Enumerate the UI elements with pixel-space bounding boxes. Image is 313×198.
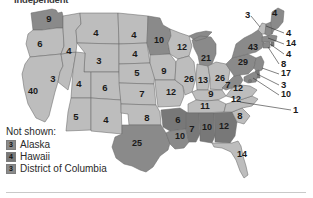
legend-title: Not shown: bbox=[6, 126, 156, 137]
state-value-mi: 21 bbox=[201, 53, 211, 63]
state-value-wy: 3 bbox=[96, 55, 101, 66]
legend-swatch-2: 3 bbox=[6, 164, 16, 174]
state-value-ky: 9 bbox=[208, 88, 213, 99]
state-value-nd: 4 bbox=[131, 29, 137, 40]
state-ks[interactable] bbox=[119, 83, 156, 105]
state-value-sc: 8 bbox=[237, 110, 242, 121]
callout-value-dc: 1 bbox=[293, 104, 299, 115]
callout-value-me: 4 bbox=[272, 7, 278, 18]
state-value-wi: 12 bbox=[177, 42, 187, 52]
legend-label-0: Alaska bbox=[20, 139, 50, 150]
state-value-ok: 8 bbox=[144, 112, 149, 123]
state-value-pa: 29 bbox=[238, 57, 248, 67]
legend-swatch-0: 3 bbox=[6, 140, 16, 150]
state-value-ar: 6 bbox=[175, 114, 180, 125]
leader-line-md bbox=[253, 78, 279, 95]
state-value-in: 13 bbox=[198, 75, 208, 85]
state-value-or: 6 bbox=[37, 38, 42, 49]
callout-value-md: 10 bbox=[281, 89, 291, 99]
state-value-la: 10 bbox=[175, 131, 185, 141]
state-value-ne: 5 bbox=[134, 67, 140, 78]
state-value-il: 26 bbox=[184, 74, 194, 84]
state-value-ga: 12 bbox=[219, 121, 229, 131]
leader-line-ri bbox=[270, 44, 284, 54]
legend-swatch-1: 4 bbox=[6, 152, 16, 162]
legend-item-district-of-columbia: 3District of Columbia bbox=[6, 163, 156, 174]
state-value-sd: 4 bbox=[132, 48, 138, 59]
state-value-ks: 7 bbox=[139, 88, 144, 99]
state-value-mo: 12 bbox=[166, 87, 176, 97]
state-value-ca: 40 bbox=[28, 86, 38, 96]
state-value-fl: 14 bbox=[237, 149, 247, 159]
state-value-mt: 4 bbox=[93, 27, 99, 38]
legend-label-1: Hawaii bbox=[20, 151, 50, 162]
callout-value-de: 3 bbox=[281, 79, 286, 90]
state-value-wv: 7 bbox=[225, 79, 230, 90]
legend-label-2: District of Columbia bbox=[20, 163, 107, 174]
callout-value-vt: 3 bbox=[245, 9, 250, 20]
state-dc[interactable] bbox=[248, 79, 251, 82]
state-value-al: 10 bbox=[202, 122, 212, 132]
state-value-va: 12 bbox=[233, 83, 243, 93]
state-value-wa: 9 bbox=[46, 13, 51, 24]
leader-line-nj bbox=[262, 68, 279, 74]
state-value-id: 4 bbox=[66, 45, 72, 56]
legend-item-alaska: 3Alaska bbox=[6, 139, 156, 150]
legend-not-shown: Not shown: 3Alaska4Hawaii3District of Co… bbox=[6, 126, 156, 175]
electoral-map-figure: Independent bbox=[0, 0, 313, 198]
legend-items: 3Alaska4Hawaii3District of Columbia bbox=[6, 139, 156, 174]
state-value-nv: 3 bbox=[50, 73, 55, 84]
state-value-mn: 10 bbox=[154, 35, 164, 45]
leader-line-vt bbox=[251, 16, 260, 27]
state-value-ut: 4 bbox=[76, 78, 82, 89]
state-ok[interactable] bbox=[121, 104, 161, 125]
callout-value-nh: 4 bbox=[286, 27, 292, 38]
state-value-az: 5 bbox=[73, 111, 79, 122]
state-ct[interactable] bbox=[263, 42, 270, 48]
callout-value-ct: 8 bbox=[281, 58, 286, 69]
state-value-ia: 9 bbox=[161, 65, 166, 76]
legend-item-hawaii: 4Hawaii bbox=[6, 151, 156, 162]
callout-value-ri: 4 bbox=[286, 48, 292, 59]
leader-line-de bbox=[257, 74, 279, 85]
state-value-co: 6 bbox=[102, 82, 107, 93]
state-value-ms: 7 bbox=[189, 123, 194, 134]
state-value-nc: 12 bbox=[231, 94, 241, 104]
bottom-divider bbox=[6, 192, 306, 193]
callout-value-nj: 17 bbox=[281, 68, 291, 78]
state-fl[interactable] bbox=[212, 141, 248, 178]
state-value-nm: 4 bbox=[103, 114, 109, 125]
state-value-ny: 43 bbox=[248, 42, 258, 52]
state-or[interactable] bbox=[26, 28, 64, 57]
state-value-oh: 26 bbox=[215, 73, 225, 83]
state-value-tn: 11 bbox=[200, 101, 210, 111]
